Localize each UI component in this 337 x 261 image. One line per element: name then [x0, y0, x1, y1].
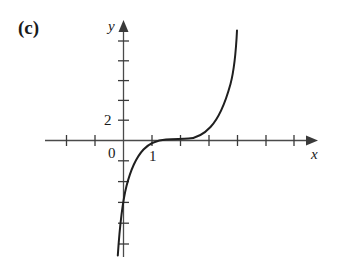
x-axis-label: x — [310, 146, 318, 162]
origin-tick-label: 0 — [108, 145, 116, 161]
x-tick-label-1: 1 — [149, 148, 157, 164]
x-axis-arrow-icon — [306, 136, 318, 146]
y-axis-arrow-icon — [119, 20, 129, 32]
function-graph: x y 0 2 1 — [0, 0, 337, 261]
figure-panel: (c) — [0, 0, 337, 261]
cubic-curve-path — [118, 31, 237, 256]
y-axis-label: y — [106, 18, 115, 34]
y-tick-label-2: 2 — [104, 112, 112, 128]
